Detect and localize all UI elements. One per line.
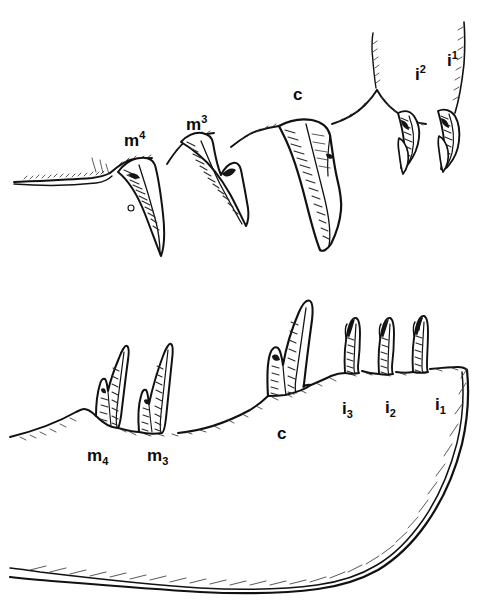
label-lower-i1: i1 [435,396,446,413]
label-lower-i2: i2 [385,399,396,416]
lower-jaw-group [10,300,468,593]
tooth-upper-m4 [118,158,164,256]
label-lower-m3-base: m [147,446,162,465]
mandible-alveolar-margin [10,367,467,440]
upper-jaw-group [14,22,465,256]
tooth-lower-i3 [345,318,360,374]
label-lower-i2-index: 2 [390,407,396,419]
label-lower-m4-base: m [87,446,102,465]
label-lower-m3-index: 3 [162,455,168,467]
tooth-lower-i1 [413,316,428,373]
upper-palate-margin [14,158,112,185]
label-upper-m4-index: 4 [139,129,145,141]
label-lower-c: c [277,425,286,442]
label-upper-m4-base: m [124,131,139,150]
label-upper-m3: m3 [186,116,207,133]
tooth-upper-canine [279,119,341,250]
label-upper-m3-index: 3 [201,113,207,125]
mandible-body-outline [10,369,468,593]
dentition-figure: m4 m3 c i2 i1 m4 m3 c i3 i2 i1 [0,0,487,614]
tooth-upper-i1 [438,22,465,172]
label-upper-c: c [293,86,302,103]
label-upper-i2-index: 2 [420,63,426,75]
label-lower-c-base: c [277,424,286,443]
label-lower-i3-index: 3 [347,408,353,420]
label-upper-c-base: c [293,85,302,104]
dentition-illustration [0,0,487,614]
label-upper-i1: i1 [447,52,458,69]
upper-alveolar-margin [110,33,426,173]
label-upper-i2: i2 [415,66,426,83]
tooth-lower-i2 [379,318,394,375]
label-upper-m3-base: m [186,115,201,134]
label-lower-m3: m3 [147,447,168,464]
label-upper-m4: m4 [124,132,145,149]
tooth-lower-m3 [138,344,172,434]
label-upper-i1-index: 1 [452,49,458,61]
tooth-upper-m3 [181,133,248,226]
label-lower-m4-index: 4 [102,455,108,467]
tooth-upper-i2 [398,111,419,174]
label-lower-i3: i3 [342,400,353,417]
tooth-lower-canine [267,300,312,396]
tooth-lower-m4 [96,346,129,428]
label-lower-i1-index: 1 [440,404,446,416]
label-lower-m4: m4 [87,447,108,464]
